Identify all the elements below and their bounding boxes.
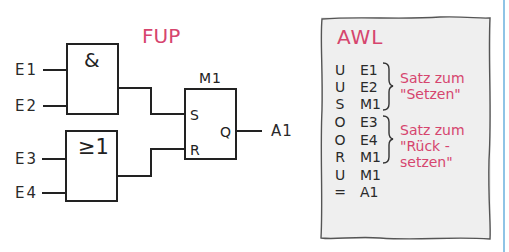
note-set-line2: "Setzen" [400,86,465,102]
awl-op-1: U [333,63,347,77]
awl-op-4: O [333,115,347,129]
awl-arg-3: M1 [360,97,381,111]
awl-arg-4: E3 [360,115,378,129]
awl-op-5: O [333,133,347,147]
awl-op-7: U [333,168,347,182]
page-margin-rule [503,0,505,252]
note-set: Satz zum "Setzen" [400,70,465,102]
note-reset: Satz zum "Rück - setzen" [400,122,465,170]
note-reset-line2: "Rück - [400,138,465,154]
note-set-line1: Satz zum [400,70,465,86]
awl-op-3: S [333,97,347,111]
awl-arg-1: E1 [360,63,378,77]
awl-op-6: R [333,150,347,164]
awl-arg-8: A1 [360,185,378,199]
awl-arg-2: E2 [360,80,378,94]
awl-op-2: U [333,80,347,94]
awl-title: AWL [337,27,384,47]
awl-op-8: = [333,185,347,199]
awl-arg-7: M1 [360,168,381,182]
note-reset-line3: setzen" [400,154,465,170]
note-reset-line1: Satz zum [400,122,465,138]
awl-arg-5: E4 [360,133,378,147]
awl-arg-6: M1 [360,150,381,164]
